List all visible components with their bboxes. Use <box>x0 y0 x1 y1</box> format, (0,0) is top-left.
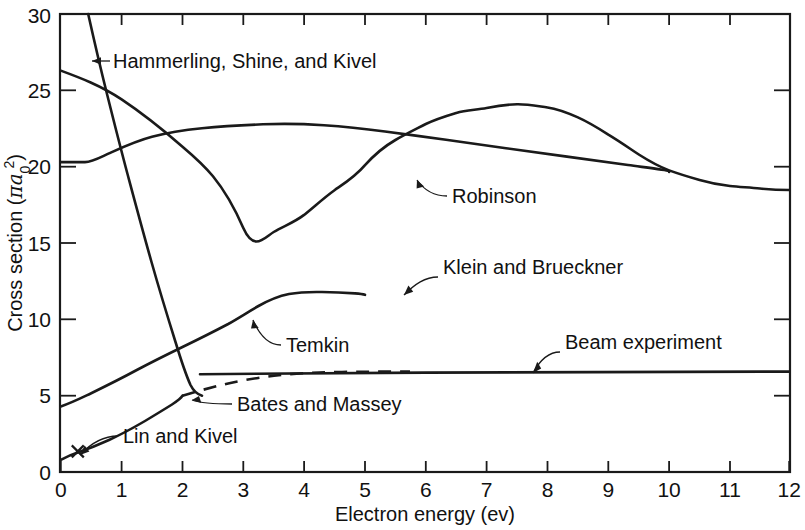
x-tick-label: 3 <box>237 478 249 501</box>
x-tick-label: 4 <box>298 478 310 501</box>
plot-frame <box>60 14 790 472</box>
annotation-beam-experiment: Beam experiment <box>533 331 722 373</box>
cross-section-plot: 0 1 2 3 4 5 6 7 8 9 10 11 12 0 5 10 15 2… <box>0 0 805 530</box>
y-axis-title-prefix: Cross section ( <box>4 198 26 332</box>
y-tick-label: 30 <box>28 4 51 27</box>
annotation-label: Klein and Brueckner <box>443 256 623 278</box>
x-tick-label: 11 <box>719 478 741 501</box>
annotation-label: Temkin <box>286 334 349 356</box>
curve-robinson-path <box>61 71 789 242</box>
annotation-label: Lin and Kivel <box>123 425 238 447</box>
x-tick-label: 6 <box>420 478 432 501</box>
y-tick-label: 0 <box>39 461 51 484</box>
x-tick-label: 7 <box>481 478 493 501</box>
x-tick-label: 1 <box>116 478 128 501</box>
x-axis-ticks-top <box>122 14 730 25</box>
annotation-klein-and-brueckner: Klein and Brueckner <box>404 256 623 295</box>
y-axis-title-sup: 2 <box>1 161 17 169</box>
x-tick-label: 8 <box>542 478 554 501</box>
annotation-label: Beam experiment <box>565 331 722 353</box>
x-axis-ticks <box>61 461 789 472</box>
x-tick-labels: 0 1 2 3 4 5 6 7 8 9 10 11 12 <box>55 478 801 501</box>
curve-beam-experiment <box>200 372 789 375</box>
annotation-label: Bates and Massey <box>237 393 402 415</box>
annotation-label: Hammerling, Shine, and Kivel <box>113 50 376 72</box>
annotation-lin-and-kivel: Lin and Kivel <box>80 425 238 455</box>
y-axis-title-sub: 0 <box>17 165 33 173</box>
y-tick-label: 15 <box>28 232 51 255</box>
annotation-bates-and-massey: Bates and Massey <box>192 393 402 415</box>
y-axis-ticks-right <box>774 90 790 395</box>
y-tick-label: 25 <box>28 79 51 102</box>
y-axis-title-a: a <box>3 173 27 185</box>
y-tick-labels: 0 5 10 15 20 25 30 <box>28 4 51 484</box>
figure-container: 0 1 2 3 4 5 6 7 8 9 10 11 12 0 5 10 15 2… <box>0 0 805 530</box>
x-tick-label: 0 <box>55 478 67 501</box>
x-tick-label: 2 <box>177 478 189 501</box>
y-axis-title-pi: π <box>3 184 27 199</box>
annotation-temkin: Temkin <box>251 320 349 356</box>
x-tick-label: 5 <box>359 478 371 501</box>
x-axis-title: Electron energy (ev) <box>335 503 515 525</box>
y-tick-label: 10 <box>28 308 51 331</box>
x-tick-label: 12 <box>778 478 801 501</box>
annotation-hammerling-shine-and-kivel: Hammerling, Shine, and Kivel <box>92 50 376 72</box>
y-tick-label: 5 <box>39 384 51 407</box>
y-axis-title-suffix: ) <box>4 154 26 161</box>
x-tick-label: 10 <box>657 478 680 501</box>
x-tick-label: 9 <box>602 478 614 501</box>
annotation-robinson: Robinson <box>417 180 537 207</box>
annotation-label: Robinson <box>452 185 537 207</box>
